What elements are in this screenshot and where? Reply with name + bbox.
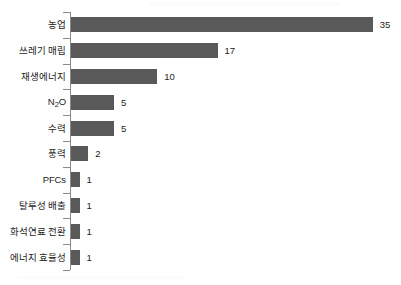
category-label: 에너지 효율성 (0, 252, 66, 263)
bar-row: 탈루성 배출1 (0, 193, 401, 219)
category-label: 탈루성 배출 (0, 200, 66, 211)
bar-value-label: 1 (87, 252, 92, 263)
category-label: PFCs (0, 174, 66, 185)
axis-tick (63, 270, 70, 271)
bar (71, 250, 80, 265)
bar-and-value: 1 (71, 193, 92, 219)
bar-value-label: 35 (380, 19, 391, 30)
bar (71, 121, 114, 136)
bar-row: 에너지 효율성1 (0, 244, 401, 270)
bar-row: 재생에너지10 (0, 64, 401, 90)
category-label: 풍력 (0, 148, 66, 159)
category-label: 재생에너지 (0, 71, 66, 82)
bar-rows: 농업35쓰레기 매립17재생에너지10N2O5수력5풍력2PFCs1탈루성 배출… (0, 12, 401, 270)
bar-row: 화석연료 전환1 (0, 218, 401, 244)
bar-and-value: 1 (71, 244, 92, 270)
category-label: 화석연료 전환 (0, 226, 66, 237)
bar-and-value: 35 (71, 12, 390, 38)
category-label: 쓰레기 매립 (0, 45, 66, 56)
bar (71, 198, 80, 213)
bar-chart: 농업35쓰레기 매립17재생에너지10N2O5수력5풍력2PFCs1탈루성 배출… (0, 0, 401, 285)
category-label: 수력 (0, 123, 66, 134)
bar-value-label: 2 (95, 148, 100, 159)
bar-row: PFCs1 (0, 167, 401, 193)
bar (71, 17, 373, 32)
bar-value-label: 5 (121, 123, 126, 134)
bar (71, 224, 80, 239)
bar-row: 농업35 (0, 12, 401, 38)
bar (71, 146, 88, 161)
bar-and-value: 17 (71, 38, 235, 64)
bar-row: 풍력2 (0, 141, 401, 167)
bar-value-label: 10 (164, 71, 175, 82)
bar (71, 43, 218, 58)
bar-row: 수력5 (0, 115, 401, 141)
bar (71, 172, 80, 187)
bar-value-label: 1 (87, 174, 92, 185)
bar (71, 69, 157, 84)
bar-and-value: 1 (71, 218, 92, 244)
bar-and-value: 5 (71, 115, 126, 141)
category-label: 농업 (0, 19, 66, 30)
bar-row: N2O5 (0, 89, 401, 115)
plot-area: 농업35쓰레기 매립17재생에너지10N2O5수력5풍력2PFCs1탈루성 배출… (0, 0, 401, 285)
bar-and-value: 5 (71, 89, 126, 115)
category-label: N2O (0, 96, 66, 108)
bar-value-label: 5 (121, 97, 126, 108)
bar-and-value: 1 (71, 167, 92, 193)
bar-and-value: 2 (71, 141, 101, 167)
bottom-edge-artifact (18, 276, 188, 279)
bar-and-value: 10 (71, 64, 175, 90)
bar-value-label: 1 (87, 226, 92, 237)
bar-value-label: 17 (225, 45, 236, 56)
bar (71, 95, 114, 110)
bar-value-label: 1 (87, 200, 92, 211)
bar-row: 쓰레기 매립17 (0, 38, 401, 64)
